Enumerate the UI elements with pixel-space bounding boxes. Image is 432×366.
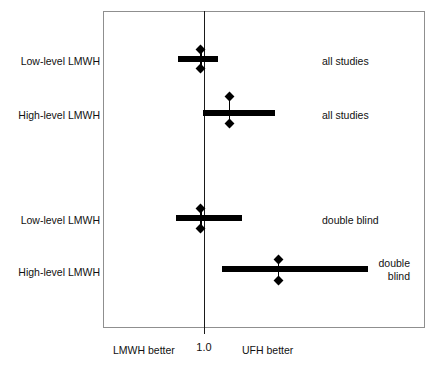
- confidence-interval-bar-3: [176, 215, 242, 221]
- group-label-1: all studies: [322, 55, 369, 68]
- group-label-2: all studies: [322, 109, 369, 122]
- axis-tick-label-null: 1.0: [184, 341, 224, 353]
- row-label-1: Low-level LMWH: [21, 55, 100, 67]
- row-label-2: High-level LMWH: [18, 109, 100, 121]
- group-label-4: double blind: [378, 257, 410, 283]
- confidence-interval-bar-4: [222, 266, 368, 272]
- confidence-interval-bar-2: [203, 110, 275, 116]
- row-label-4: High-level LMWH: [18, 266, 100, 278]
- plot-frame: [103, 11, 425, 328]
- forest-plot: Low-level LMWH all studies High-level LM…: [0, 0, 432, 366]
- group-label-3: double blind: [322, 214, 379, 227]
- confidence-interval-bar-1: [178, 56, 218, 62]
- axis-caption-left: LMWH better: [113, 344, 175, 356]
- axis-caption-right: UFH better: [242, 344, 293, 356]
- row-label-3: Low-level LMWH: [21, 214, 100, 226]
